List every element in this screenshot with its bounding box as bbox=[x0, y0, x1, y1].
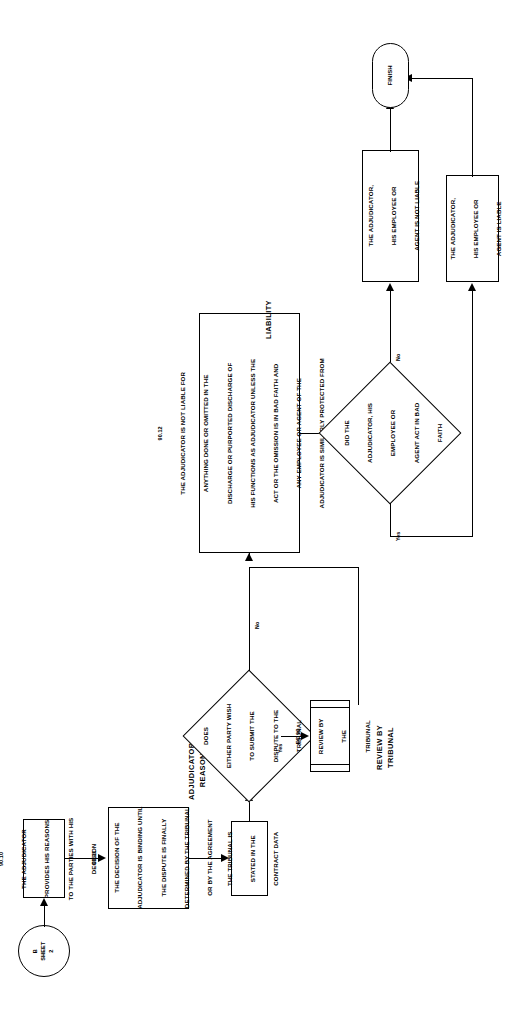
node-decision-submit-line-4: DISPUTE TO THE bbox=[272, 710, 279, 763]
node-decision-submit-line-3: TO SUBMIT THE bbox=[248, 711, 255, 760]
node-step-90-12-line-3: DISCHARGE OR PURPORTED DISCHARGE OF bbox=[226, 362, 233, 503]
node-step-90-11-line-3: THE DISPUTE IS FINALLY bbox=[160, 819, 167, 897]
node-step-90-12-line-5: ACT OR THE OMISSION IS IN BAD FAITH AND bbox=[272, 363, 279, 502]
node-fc93-line-2: THE bbox=[341, 730, 348, 743]
branch-label-bad-faith-no-text: No bbox=[394, 354, 402, 361]
node-decision-bad-faith-line-1: DID THE bbox=[343, 420, 350, 445]
node-not-liable-line-3: AGENT IS NOT LIABLE bbox=[413, 181, 420, 251]
section-label-liability-text: LIABILITY bbox=[263, 300, 274, 339]
node-step-90-11: 90.11 THE DECISION OF THE ADJUDICATOR IS… bbox=[108, 807, 189, 909]
node-step-90-11-number: 90.11 bbox=[91, 851, 97, 865]
section-label-review-by-tribunal: REVIEW BY TRIBUNAL bbox=[374, 770, 419, 796]
node-adjudicator-is-liable: THE ADJUDICATOR, HIS EMPLOYEE OR AGENT I… bbox=[446, 175, 499, 282]
node-decision-submit-text: DOES EITHER PARTY WISH TO SUBMIT THE DIS… bbox=[191, 704, 307, 768]
section-label-review-by-tribunal-text: REVIEW BY TRIBUNAL bbox=[374, 725, 396, 770]
node-step-90-12-line-4: HIS FUNCTIONS AS ADJUDICATOR UNLESS THE bbox=[249, 359, 256, 508]
node-step-90-12-line-2: ANYTHING DONE OR OMITTED IN THE bbox=[203, 374, 210, 492]
edge-is-liable-across-to-finish bbox=[412, 78, 473, 79]
node-step-90-11-line-1: THE DECISION OF THE bbox=[113, 823, 120, 893]
connector-letter: B bbox=[33, 949, 39, 953]
edge-connector-to-9010 bbox=[44, 905, 45, 927]
node-decision-submit-line-1: DOES bbox=[202, 727, 209, 745]
edge-fc93-return-horizontal bbox=[249, 567, 359, 568]
node-not-liable-text: THE ADJUDICATOR, HIS EMPLOYEE OR AGENT I… bbox=[356, 181, 426, 251]
arrowhead-bad-faith-yes-to-liable bbox=[468, 283, 476, 291]
node-decision-bad-faith-line-3: EMPLOYEE OR bbox=[389, 410, 396, 456]
section-label-liability: LIABILITY bbox=[263, 330, 302, 354]
edge-bad-faith-yes-down bbox=[390, 503, 391, 536]
node-step-90-10-line-1: THE ADJUDICATOR bbox=[20, 829, 27, 889]
node-is-liable-line-2: HIS EMPLOYEE OR bbox=[472, 199, 479, 258]
off-page-connector-text: B SHEET 2 bbox=[32, 941, 56, 960]
node-decision-bad-faith-line-5: FAITH bbox=[436, 424, 443, 442]
edge-fc93-return-vertical bbox=[358, 567, 359, 705]
node-tribunal-stated-line-2: STATED IN THE bbox=[249, 835, 256, 882]
branch-label-bad-faith-yes: Yes bbox=[394, 530, 403, 554]
node-decision-bad-faith-text: DID THE ADJUDICATOR, HIS EMPLOYEE OR AGE… bbox=[332, 403, 448, 464]
node-decision-submit-line-2: EITHER PARTY WISH bbox=[225, 704, 232, 768]
node-step-90-10-line-2: PROVIDES HIS REASONS bbox=[43, 819, 50, 897]
node-step-90-12-number: 90.12 bbox=[157, 426, 163, 440]
node-step-90-11-line-2: ADJUDICATOR IS BINDING UNTIL bbox=[136, 807, 143, 910]
node-tribunal-stated-text: THE TRIBUNAL IS STATED IN THE CONTRACT D… bbox=[215, 831, 285, 886]
arrowhead-bad-faith-no-to-not-liable bbox=[386, 283, 394, 291]
node-step-90-10: 90.10 THE ADJUDICATOR PROVIDES HIS REASO… bbox=[23, 819, 65, 898]
node-decision-bad-faith-line-4: AGENT ACT IN BAD bbox=[413, 403, 420, 464]
edge-submit-no-to-9012 bbox=[249, 567, 250, 671]
node-not-liable-line-2: HIS EMPLOYEE OR bbox=[390, 187, 397, 246]
node-step-90-12-line-1: THE ADJUDICATOR IS NOT LIABLE FOR bbox=[179, 372, 186, 495]
branch-label-submit-no-text: No bbox=[253, 622, 261, 629]
node-is-liable-text: THE ADJUDICATOR, HIS EMPLOYEE OR AGENT I… bbox=[438, 198, 508, 260]
node-tribunal-stated: THE TRIBUNAL IS STATED IN THE CONTRACT D… bbox=[231, 821, 268, 896]
branch-label-bad-faith-no: No bbox=[394, 350, 401, 374]
connector-sheet-number: 2 bbox=[49, 949, 55, 952]
node-fc93-line-3: TRIBUNAL bbox=[364, 720, 371, 752]
edge-bad-faith-yes-up-to-liable bbox=[472, 290, 473, 537]
flowchart-canvas: B SHEET 2 90.10 THE ADJUDICATOR PROVIDES… bbox=[0, 0, 530, 1017]
node-finish: FINISH bbox=[372, 43, 409, 108]
node-decision-bad-faith: DID THE ADJUDICATOR, HIS EMPLOYEE OR AGE… bbox=[320, 363, 460, 503]
node-decision-bad-faith-line-2: ADJUDICATOR, HIS bbox=[366, 403, 373, 463]
connector-sheet-word: SHEET bbox=[41, 941, 47, 960]
node-fc93-review-by-tribunal: FC 93 REVIEW BY THE TRIBUNAL bbox=[310, 700, 350, 772]
edge-bad-faith-no-to-not-liable bbox=[390, 290, 391, 362]
node-decision-submit-line-5: TRIBUNAL bbox=[295, 720, 302, 752]
edge-tribunal-stated-to-decision bbox=[249, 800, 250, 822]
branch-label-submit-no: No bbox=[253, 618, 260, 642]
edge-is-liable-up bbox=[472, 78, 473, 177]
node-is-liable-line-3: AGENT IS LIABLE bbox=[495, 201, 502, 256]
node-finish-label: FINISH bbox=[386, 65, 395, 85]
edge-submit-no-stub bbox=[249, 553, 250, 561]
node-decision-submit-to-tribunal: DOES EITHER PARTY WISH TO SUBMIT THE DIS… bbox=[184, 671, 314, 801]
node-tribunal-stated-line-3: CONTRACT DATA bbox=[272, 832, 279, 886]
node-fc93-line-1: REVIEW BY bbox=[318, 718, 325, 754]
node-adjudicator-not-liable: THE ADJUDICATOR, HIS EMPLOYEE OR AGENT I… bbox=[362, 150, 419, 282]
off-page-connector-b: B SHEET 2 bbox=[18, 925, 70, 977]
node-tribunal-stated-line-1: THE TRIBUNAL IS bbox=[226, 831, 233, 886]
node-is-liable-line-1: THE ADJUDICATOR, bbox=[449, 198, 456, 260]
node-step-90-10-number: 90.10 bbox=[0, 851, 4, 865]
node-not-liable-line-1: THE ADJUDICATOR, bbox=[367, 185, 374, 247]
edge-bad-faith-yes-across bbox=[390, 536, 473, 537]
review-by-tribunal-line-2: TRIBUNAL bbox=[386, 727, 395, 768]
edge-not-liable-to-finish bbox=[390, 108, 391, 152]
review-by-tribunal-line-1: REVIEW BY bbox=[375, 725, 384, 770]
